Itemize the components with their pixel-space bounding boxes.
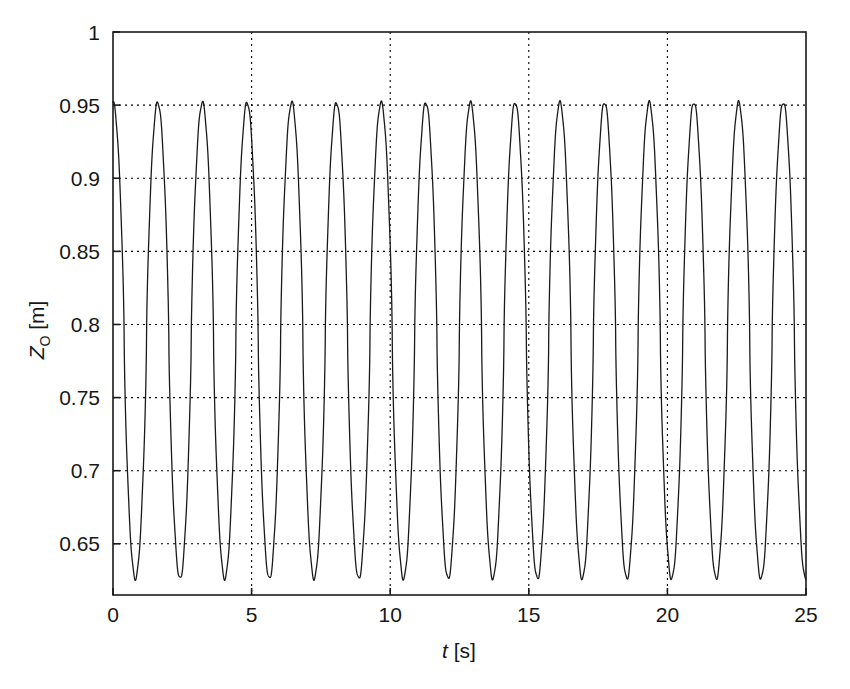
line-chart: 0.650.70.750.80.850.90.951 0510152025 ZO…: [0, 0, 850, 689]
y-tick-label: 0.9: [71, 167, 100, 190]
x-tick-label: 5: [246, 603, 258, 626]
x-tick-label: 25: [794, 603, 817, 626]
y-tick-label: 0.85: [59, 240, 100, 263]
x-tick-label: 0: [107, 603, 119, 626]
y-tick-label: 1: [88, 21, 100, 44]
x-axis-title: t [s]: [442, 639, 476, 662]
x-axis-unit: [s]: [448, 639, 476, 662]
y-tick-label: 0.8: [71, 313, 100, 336]
y-tick-label: 0.75: [59, 386, 100, 409]
x-tick-label: 10: [379, 603, 402, 626]
y-tick-label: 0.7: [71, 459, 100, 482]
svg-text:t [s]: t [s]: [442, 639, 476, 662]
chart-figure: 0.650.70.750.80.850.90.951 0510152025 ZO…: [0, 0, 850, 689]
x-tick-label: 15: [517, 603, 540, 626]
x-tick-label: 20: [656, 603, 679, 626]
y-tick-label: 0.65: [59, 532, 100, 555]
y-axis-unit: [m]: [25, 301, 48, 336]
y-tick-label: 0.95: [59, 94, 100, 117]
y-axis-symbol: Z: [25, 345, 48, 360]
y-axis-subscript: O: [37, 336, 53, 347]
